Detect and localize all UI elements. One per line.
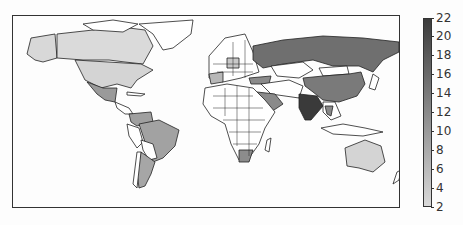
colorbar-tick: 22 — [436, 12, 451, 24]
region-japan — [369, 74, 379, 90]
colorbar-tick: 2 — [436, 201, 444, 213]
colorbar-tick: 12 — [436, 106, 451, 118]
colorbar-ticks: 22 20 18 16 14 12 10 8 6 4 2 — [436, 12, 463, 212]
colorbar-tick: 8 — [436, 144, 444, 156]
region-new-zealand — [393, 170, 400, 184]
region-spain — [209, 72, 223, 84]
region-madagascar — [265, 138, 271, 152]
region-alaska — [27, 34, 57, 62]
map-svg — [13, 16, 400, 208]
colorbar-tick: 18 — [436, 49, 451, 61]
world-map — [12, 15, 400, 208]
colorbar-tick: 20 — [436, 30, 451, 42]
region-indonesia — [321, 124, 383, 136]
region-cuba — [127, 92, 145, 96]
colorbar-tick: 14 — [436, 87, 451, 99]
colorbar-tick: 4 — [436, 182, 444, 194]
region-india — [299, 94, 323, 120]
region-australia — [345, 140, 385, 172]
region-usa — [75, 60, 153, 88]
colorbar-tick: 10 — [436, 125, 451, 137]
colorbar-tick: 16 — [436, 68, 451, 80]
region-central-america — [115, 102, 133, 114]
colorbar-tick: 6 — [436, 163, 444, 175]
region-south-africa — [239, 150, 253, 162]
region-canada — [57, 26, 153, 64]
